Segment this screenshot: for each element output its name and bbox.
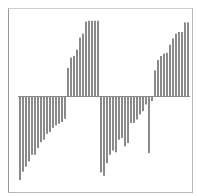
bar [184, 22, 186, 96]
bar [124, 96, 126, 146]
bar [55, 96, 57, 125]
bar-chart [0, 0, 197, 196]
bar [166, 53, 168, 96]
bar [118, 96, 120, 140]
bar [31, 96, 33, 155]
bar [109, 96, 111, 155]
bar [58, 96, 60, 124]
bar [40, 96, 42, 142]
bar [175, 34, 177, 96]
bar [67, 68, 69, 96]
bar [154, 70, 156, 96]
bar [43, 96, 45, 140]
bar [46, 96, 48, 134]
bar [94, 21, 96, 96]
bar [148, 96, 150, 153]
bar [22, 96, 24, 172]
bar [91, 21, 93, 96]
bar [133, 96, 135, 123]
bar [130, 96, 132, 123]
bar [127, 96, 129, 143]
bar [103, 96, 105, 176]
bar [136, 96, 138, 120]
bar [160, 56, 162, 96]
bar [88, 21, 90, 96]
bar [85, 22, 87, 96]
bar [178, 32, 180, 96]
bar [82, 34, 84, 96]
bar [76, 50, 78, 96]
bar [112, 96, 114, 151]
bar [106, 96, 108, 163]
bar [139, 96, 141, 115]
bar [172, 38, 174, 96]
bar [28, 96, 30, 162]
bar [169, 45, 171, 96]
bar [49, 96, 51, 132]
bar [115, 96, 117, 152]
bar [121, 96, 123, 138]
bar [181, 32, 183, 96]
bar [73, 56, 75, 96]
bar [37, 96, 39, 148]
bar [187, 22, 189, 96]
bar [61, 96, 63, 122]
bar [64, 96, 66, 119]
bar [79, 38, 81, 96]
bar [157, 60, 159, 96]
bar [34, 96, 36, 155]
bar [70, 58, 72, 96]
bar [19, 96, 21, 180]
bar [52, 96, 54, 128]
bar [25, 96, 27, 167]
bar [145, 96, 147, 104]
bar [163, 54, 165, 96]
bar [97, 21, 99, 96]
bar [100, 96, 102, 172]
bar [142, 96, 144, 111]
